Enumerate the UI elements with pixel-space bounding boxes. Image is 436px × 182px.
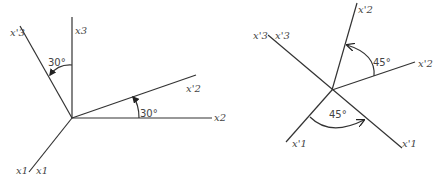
label-x3: x3 — [75, 25, 87, 36]
angle-label-bottom: 45° — [329, 109, 347, 120]
x2-prime-vertical-axis — [332, 3, 357, 90]
angle-arc-right — [133, 97, 139, 118]
label-x2: x2 — [214, 112, 226, 123]
label-x2-prime-right: x'2 — [418, 58, 433, 69]
x3-prime-axis — [20, 26, 72, 118]
label-x2-prime-top: x'2 — [358, 4, 373, 15]
angle-label-top-right: 45° — [373, 57, 391, 68]
angle-label-top: 30° — [48, 57, 66, 68]
angle-label-right: 30° — [140, 108, 158, 119]
right-panel: x'3 x'3 x'2 45° x'2 45° x'1 x'1 — [253, 3, 433, 149]
label-x3-prime-a: x'3 — [253, 30, 268, 41]
left-panel: x'3 x3 30° x'2 30° x2 x1 x1 — [10, 17, 226, 176]
label-x1-prime-left: x'1 — [292, 138, 307, 149]
label-x1-left: x1 — [16, 165, 28, 176]
x3-prime-axis — [268, 35, 402, 148]
label-x3-prime-b: x'3 — [275, 30, 290, 41]
x1-axis — [29, 118, 72, 172]
label-x2-prime: x'2 — [186, 83, 201, 94]
label-x3-prime: x'3 — [10, 27, 25, 38]
x1-prime-axis — [286, 90, 332, 142]
label-x1-prime-right: x'1 — [402, 138, 417, 149]
label-x1-right: x1 — [36, 165, 48, 176]
angle-arc-top-right — [347, 45, 374, 76]
x2-prime-axis — [72, 75, 196, 118]
rotation-diagram: x'3 x3 30° x'2 30° x2 x1 x1 x'3 x'3 x'2 … — [0, 0, 436, 182]
